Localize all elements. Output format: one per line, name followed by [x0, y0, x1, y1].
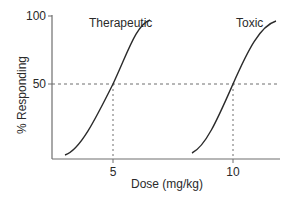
- y-axis-label: % Responding: [15, 56, 29, 134]
- y-tick-label-100: 100: [26, 9, 46, 23]
- curve-therapeutic: [65, 20, 150, 155]
- x-axis-label: Dose (mg/kg): [131, 177, 203, 191]
- y-tick-label-50: 50: [33, 77, 47, 91]
- curve-toxic: [192, 21, 276, 153]
- x-tick-label-5: 5: [110, 165, 117, 179]
- x-tick-label-10: 10: [226, 165, 240, 179]
- dose-response-chart: 100 50 5 10 Therapeutic Toxic Dose (mg/k…: [0, 0, 302, 200]
- label-toxic: Toxic: [236, 16, 263, 30]
- label-therapeutic: Therapeutic: [89, 16, 152, 30]
